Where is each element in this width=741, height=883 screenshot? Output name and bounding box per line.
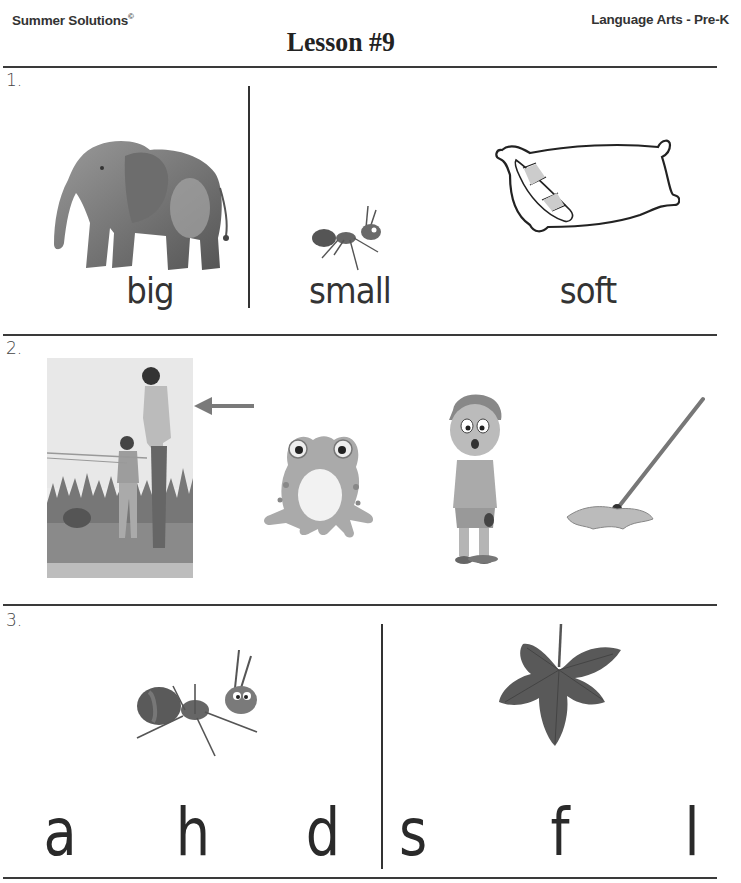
arrow-left-icon bbox=[194, 395, 256, 417]
ant-image bbox=[135, 648, 263, 758]
frog-image bbox=[258, 425, 376, 540]
spill-puddle bbox=[468, 555, 498, 563]
letter-choice-f[interactable]: f bbox=[535, 800, 584, 866]
word-soft: soft bbox=[534, 270, 642, 311]
lesson-title: Lesson #9 bbox=[286, 26, 394, 58]
section-2-bottom-rule bbox=[3, 604, 717, 606]
letter-choice-s[interactable]: s bbox=[388, 800, 437, 866]
pillow-image bbox=[490, 135, 680, 235]
question-number-3: 3. bbox=[6, 610, 22, 630]
section-1-bottom-rule bbox=[3, 334, 717, 336]
header-divider bbox=[3, 66, 717, 68]
mop-image bbox=[563, 395, 708, 535]
leaf-image bbox=[495, 622, 625, 752]
copyright-mark: © bbox=[128, 12, 134, 21]
father-son-fishing-image bbox=[47, 358, 193, 578]
subject-label: Language Arts - Pre-K bbox=[591, 12, 729, 27]
page-title: Lesson #9 bbox=[0, 26, 741, 58]
question-number-1: 1. bbox=[6, 70, 22, 90]
elephant-image bbox=[40, 128, 235, 276]
section-1-divider bbox=[248, 86, 250, 308]
letter-choice-h[interactable]: h bbox=[168, 800, 217, 866]
question-number-2: 2. bbox=[6, 338, 22, 358]
word-small: small bbox=[292, 270, 409, 311]
letter-choice-d[interactable]: d bbox=[298, 800, 347, 866]
crying-boy-image bbox=[435, 390, 515, 570]
section-3-bottom-rule bbox=[3, 877, 717, 879]
word-big: big bbox=[96, 270, 204, 311]
letter-choice-l[interactable]: l bbox=[667, 800, 716, 866]
section-3-divider bbox=[381, 624, 383, 869]
letter-choice-a[interactable]: a bbox=[35, 800, 84, 866]
ant-small-image bbox=[308, 200, 388, 275]
